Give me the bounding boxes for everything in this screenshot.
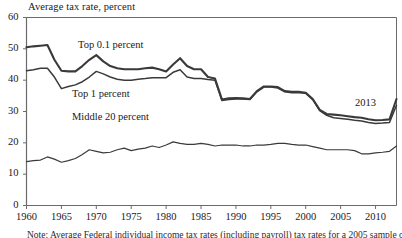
x-tick-1980: 1980 <box>149 211 183 222</box>
chart-series-lines <box>27 45 397 162</box>
chart-plot-area <box>0 0 402 238</box>
series-label-middle-20-percent: Middle 20 percent <box>72 111 149 122</box>
x-tick-1990: 1990 <box>219 211 253 222</box>
chart-figure: Average tax rate, percent 0102030405060 … <box>0 0 402 238</box>
x-tick-1960: 1960 <box>10 211 44 222</box>
y-tick-10: 10 <box>1 167 19 178</box>
x-tick-2010: 2010 <box>359 211 393 222</box>
x-tick-1970: 1970 <box>79 211 113 222</box>
y-tick-20: 20 <box>1 136 19 147</box>
x-tick-2000: 2000 <box>289 211 323 222</box>
y-tick-60: 60 <box>1 11 19 22</box>
y-tick-30: 30 <box>1 105 19 116</box>
series-label-top-0-1-percent: Top 0.1 percent <box>78 39 143 50</box>
y-tick-0: 0 <box>1 199 19 210</box>
series-label-top-1-percent: Top 1 percent <box>72 88 130 99</box>
x-tick-2005: 2005 <box>324 211 358 222</box>
chart-note: Note: Average Federal individual income … <box>27 230 402 238</box>
y-tick-40: 40 <box>1 73 19 84</box>
x-tick-1975: 1975 <box>114 211 148 222</box>
x-tick-1995: 1995 <box>254 211 288 222</box>
annotation-2013: 2013 <box>355 97 376 108</box>
series-line-middle-20-percent <box>27 142 397 162</box>
x-tick-1985: 1985 <box>184 211 218 222</box>
y-tick-50: 50 <box>1 42 19 53</box>
chart-y-axis-title: Average tax rate, percent <box>28 1 135 12</box>
x-tick-1965: 1965 <box>44 211 78 222</box>
